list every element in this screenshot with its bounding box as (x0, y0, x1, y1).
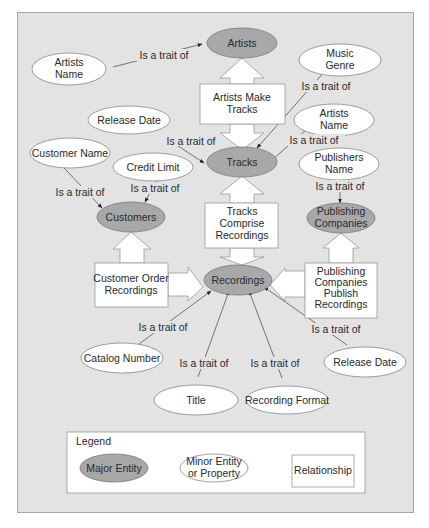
legend: Legend Major Entity Minor Entity or Prop… (67, 432, 365, 493)
svg-text:Tracks: Tracks (226, 103, 257, 115)
property-credit-limit: Credit Limit (113, 153, 193, 181)
edge-label: Is a trait of (250, 357, 299, 369)
svg-text:Name: Name (325, 163, 353, 175)
svg-text:Customer Name: Customer Name (32, 147, 109, 159)
arrow-up-to-artists (220, 58, 264, 84)
svg-text:Companies: Companies (314, 217, 367, 229)
entity-publishing-companies: Publishing Companies (307, 203, 375, 233)
property-artists-name-2: Artists Name (294, 104, 374, 136)
property-music-genre: Music Genre (299, 44, 381, 76)
edge-label: Is a trait of (166, 135, 215, 147)
edge-label: Is a trait of (138, 321, 187, 333)
svg-text:Tracks: Tracks (226, 156, 257, 168)
relationship-publishing-companies-publish-recordings: Publishing Companies Publish Recordings (305, 263, 377, 318)
edge-label: Is a trait of (289, 134, 338, 146)
property-recording-format: Recording Format (245, 386, 329, 414)
svg-text:Release Date: Release Date (333, 356, 397, 368)
relationship-tracks-comprise-recordings: Tracks Comprise Recordings (205, 203, 278, 248)
property-title: Title (154, 385, 238, 415)
svg-text:Genre: Genre (325, 59, 354, 71)
svg-text:Comprise: Comprise (220, 217, 265, 229)
edge-label: Is a trait of (55, 186, 104, 198)
edge-label: Is a trait of (311, 323, 360, 335)
svg-text:Name: Name (320, 119, 348, 131)
svg-text:Release Date: Release Date (97, 114, 161, 126)
property-catalog-number: Catalog Number (81, 343, 163, 373)
svg-text:Title: Title (186, 394, 206, 406)
svg-text:Artists: Artists (54, 56, 83, 68)
arrow-down-to-recordings (220, 248, 264, 265)
svg-text:Recordings: Recordings (104, 284, 157, 296)
svg-text:Recordings: Recordings (211, 274, 264, 286)
entity-recordings: Recordings (204, 265, 272, 295)
svg-text:Catalog Number: Catalog Number (84, 352, 161, 364)
svg-text:Credit Limit: Credit Limit (126, 161, 179, 173)
edge-label: Is a trait of (139, 49, 188, 61)
entity-tracks: Tracks (207, 147, 277, 177)
legend-major-entity: Major Entity (80, 454, 148, 482)
svg-text:Publishing: Publishing (317, 205, 366, 217)
entity-artists: Artists (207, 28, 277, 58)
svg-text:Artists Make: Artists Make (213, 91, 271, 103)
svg-text:Music: Music (326, 47, 353, 59)
arrow-right-to-recordings (168, 267, 203, 301)
svg-text:Artists: Artists (319, 107, 348, 119)
property-publishers-name: Publishers Name (299, 148, 379, 180)
svg-text:Recordings: Recordings (314, 298, 367, 310)
arrow-left-to-recordings (270, 268, 305, 301)
svg-text:Minor Entity: Minor Entity (186, 455, 242, 467)
svg-text:Recordings: Recordings (215, 229, 268, 241)
edge-label: Is a trait of (301, 80, 350, 92)
arrow-up-to-publishing (323, 233, 359, 263)
svg-text:Major Entity: Major Entity (86, 462, 142, 474)
property-release-date-2: Release Date (324, 347, 406, 377)
entity-relationship-diagram: Artists Tracks Customers Recordings Publ… (0, 0, 429, 528)
svg-text:Customers: Customers (106, 211, 157, 223)
property-artists-name-1: Artists Name (32, 53, 106, 85)
relationship-customer-order-recordings: Customer Order Recordings (93, 263, 169, 307)
arrow-down-to-tracks (220, 124, 264, 150)
legend-minor-entity: Minor Entity or Property (180, 454, 248, 482)
svg-text:Relationship: Relationship (294, 464, 352, 476)
edge-label: Is a trait of (315, 180, 364, 192)
svg-text:Tracks: Tracks (226, 205, 257, 217)
property-customer-name: Customer Name (30, 138, 110, 168)
edge-label: Is a trait of (130, 182, 179, 194)
arrow-up-to-customers (113, 232, 151, 263)
entity-customers: Customers (97, 202, 165, 232)
property-release-date-1: Release Date (88, 106, 170, 134)
svg-text:Name: Name (55, 68, 83, 80)
edge-label: Is a trait of (179, 357, 228, 369)
svg-text:Customer Order: Customer Order (93, 272, 169, 284)
svg-text:Publishers: Publishers (314, 151, 363, 163)
svg-text:or Property: or Property (188, 467, 241, 479)
legend-title: Legend (76, 435, 111, 447)
svg-text:Recording Format: Recording Format (245, 394, 329, 406)
relationship-artists-make-tracks: Artists Make Tracks (200, 84, 285, 124)
svg-text:Artists: Artists (227, 37, 256, 49)
legend-relationship: Relationship (292, 455, 354, 487)
arrow-up-to-tracks (220, 176, 264, 203)
